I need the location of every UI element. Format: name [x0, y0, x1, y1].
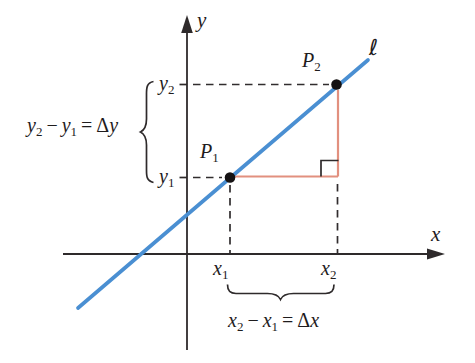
p1-label: P1	[200, 140, 219, 162]
x-axis-label-text: x	[431, 222, 440, 246]
equals-sign: =	[77, 114, 96, 136]
x-axis-label: x	[431, 223, 440, 246]
minus-sign: −	[243, 309, 262, 331]
delta-x-brace	[228, 285, 335, 300]
x-axis-arrowhead-icon	[427, 248, 445, 259]
delta-symbol: Δ	[96, 114, 109, 136]
minus-sign: −	[42, 114, 61, 136]
y-axis-label-text: y	[197, 8, 206, 32]
y1-tick-label: y1	[159, 165, 174, 187]
slope-of-line-diagram: y x ℓ P2 P1 y2 y1 x1 x2 y2−y1=Δy x2−x1=Δ…	[0, 0, 475, 363]
right-angle-marker	[321, 161, 339, 177]
y-axis-label: y	[197, 9, 206, 32]
equals-sign: =	[278, 309, 297, 331]
point-p1-dot	[225, 172, 236, 183]
delta-symbol: Δ	[297, 309, 310, 331]
delta-x-equation: x2−x1=Δx	[228, 309, 319, 331]
delta-y-equation: y2−y1=Δy	[27, 114, 118, 136]
line-name-label: ℓ	[369, 36, 378, 60]
line-name-text: ℓ	[369, 35, 378, 60]
x2-tick-label: x2	[321, 257, 336, 279]
p2-label: P2	[302, 49, 321, 71]
point-p2-dot	[331, 79, 342, 90]
x1-tick-label: x1	[213, 257, 228, 279]
delta-y-brace	[141, 82, 154, 183]
y-axis-arrowhead-icon	[181, 15, 193, 33]
y2-tick-label: y2	[159, 72, 174, 94]
